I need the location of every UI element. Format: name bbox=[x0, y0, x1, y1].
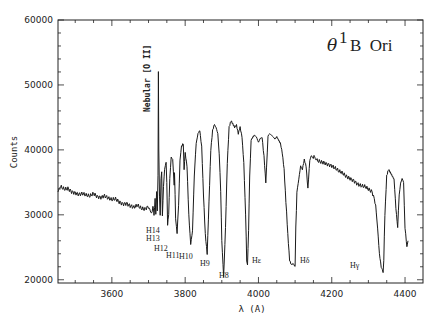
hydrogen-line-label: H8 bbox=[219, 271, 229, 280]
y-tick-label: 40000 bbox=[24, 145, 53, 155]
chart-title: θ 1 B Ori bbox=[327, 28, 393, 55]
spectrum-chart: 3600380040004200440020000300004000050000… bbox=[0, 0, 437, 330]
y-axis-title: Counts bbox=[9, 136, 19, 169]
hydrogen-line-label: H9 bbox=[200, 259, 210, 268]
y-tick-label: 50000 bbox=[24, 80, 53, 90]
y-tick-label: 60000 bbox=[24, 15, 53, 25]
line-annotations: Nebular [O II]H14H13H12H11H10H9H8HεHδHγ bbox=[143, 45, 360, 280]
hydrogen-line-label: Hδ bbox=[300, 256, 310, 265]
x-axis-title: λ (A) bbox=[238, 304, 265, 314]
hydrogen-line-label: H10 bbox=[179, 252, 193, 261]
nebular-oii-label: Nebular [O II] bbox=[143, 45, 152, 112]
hydrogen-line-label: Hε bbox=[252, 256, 262, 265]
svg-text:θ: θ bbox=[327, 35, 337, 55]
x-tick-label: 3600 bbox=[100, 289, 123, 299]
svg-text:B Ori: B Ori bbox=[350, 36, 393, 55]
x-tick-label: 4400 bbox=[394, 289, 417, 299]
x-tick-label: 4000 bbox=[247, 289, 270, 299]
axis-ticks bbox=[58, 20, 423, 283]
plot-frame bbox=[58, 20, 423, 283]
y-tick-label: 30000 bbox=[24, 210, 53, 220]
hydrogen-line-label: H13 bbox=[146, 234, 160, 243]
spectrum-line bbox=[58, 72, 408, 277]
svg-text:1: 1 bbox=[339, 28, 348, 47]
hydrogen-line-label: Hγ bbox=[350, 261, 360, 270]
y-tick-label: 20000 bbox=[24, 275, 53, 285]
x-tick-label: 3800 bbox=[174, 289, 197, 299]
hydrogen-line-label: H11 bbox=[166, 251, 179, 260]
axis-tick-labels: 3600380040004200440020000300004000050000… bbox=[24, 15, 416, 299]
x-tick-label: 4200 bbox=[320, 289, 343, 299]
